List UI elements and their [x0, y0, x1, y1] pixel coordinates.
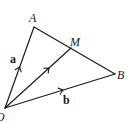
point-label-a: A: [28, 11, 37, 25]
point-label-b: B: [117, 68, 125, 82]
point-label-m: M: [69, 35, 81, 49]
segment-ob: [5, 74, 115, 108]
vector-label-a: a: [10, 52, 16, 66]
point-label-o: O: [0, 110, 5, 123]
vector-diagram: A M B O a b: [0, 0, 130, 123]
vector-label-b: b: [63, 93, 70, 107]
